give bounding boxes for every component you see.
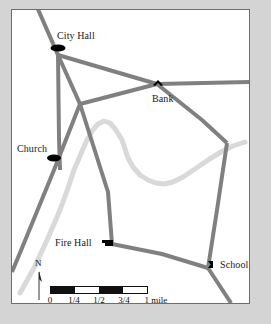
scale-segment-0: [51, 287, 75, 293]
scale-segment-2: [99, 287, 123, 293]
scale-bar-group: 0 1/4 1/2 3/4 1 mile: [50, 286, 180, 304]
map-screenshot: City Hall Bank Church Fire Hall School N…: [0, 0, 271, 324]
fire-hall-symbol[interactable]: [102, 240, 113, 246]
road-cityhall-to-bank: [58, 55, 157, 84]
city-hall-symbol[interactable]: [51, 44, 66, 51]
church-symbol[interactable]: [47, 155, 61, 162]
scale-tick-half: 1/2: [93, 295, 105, 304]
scale-tick-0: 0: [48, 295, 53, 304]
label-bank: Bank: [152, 93, 174, 104]
label-fire-hall: Fire Hall: [55, 237, 92, 248]
road-school-to-south-edge: [208, 268, 231, 303]
label-school: School: [220, 259, 248, 270]
compass-north-label: N: [35, 258, 42, 268]
road-bank-to-east-edge: [157, 82, 249, 84]
road-cityhall-to-church: [58, 55, 60, 170]
scale-bar: [50, 286, 148, 294]
scale-tick-quarter: 1/4: [68, 295, 80, 304]
scale-tick-threequarter: 3/4: [118, 295, 130, 304]
scale-tick-one-mile: 1 mile: [144, 295, 167, 304]
road-east-junction-to-school: [208, 143, 227, 268]
label-city-hall: City Hall: [57, 30, 95, 41]
label-church: Church: [17, 143, 47, 154]
map-frame: City Hall Bank Church Fire Hall School N…: [11, 9, 250, 304]
road-firehall-to-school: [112, 244, 208, 268]
scale-segment-3: [123, 287, 147, 293]
road-junction-to-bank: [80, 84, 157, 104]
scale-segment-1: [75, 287, 99, 293]
scale-tick-labels: 0 1/4 1/2 3/4 1 mile: [50, 295, 180, 304]
